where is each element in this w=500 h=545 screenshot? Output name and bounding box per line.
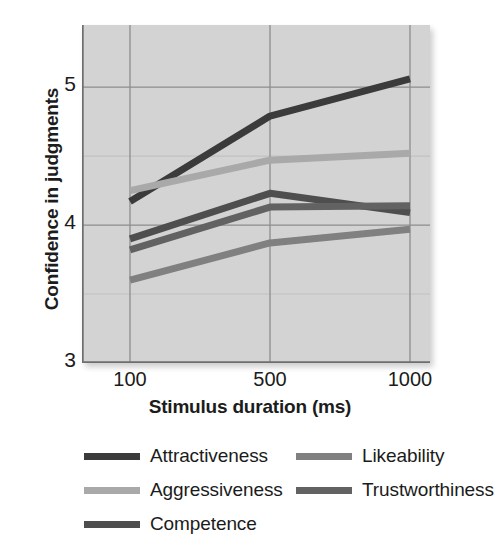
x-tick-label: 500 [253, 368, 286, 391]
legend-label: Trustworthiness [362, 479, 494, 501]
legend-label: Aggressiveness [150, 479, 283, 501]
legend-label: Attractiveness [150, 445, 268, 467]
legend-color-swatch [84, 453, 140, 460]
x-tick-label: 100 [113, 368, 146, 391]
legend-color-swatch [84, 521, 140, 528]
plot-svg [82, 25, 430, 363]
legend-item[interactable]: Aggressiveness [84, 477, 283, 503]
y-axis-tick-labels: 345 [50, 0, 76, 545]
plot-area [82, 25, 430, 363]
legend-color-swatch [84, 487, 140, 494]
legend-item[interactable]: Trustworthiness [296, 477, 494, 503]
legend-color-swatch [296, 453, 352, 460]
x-axis-tick-labels: 1005001000 [82, 368, 430, 398]
y-tick-label: 3 [50, 349, 76, 370]
x-axis-title: Stimulus duration (ms) [0, 396, 500, 418]
x-tick-label: 1000 [388, 368, 433, 391]
legend-label: Competence [150, 513, 257, 535]
line-chart-figure: Confidence in judgments 345 1005001000 S… [0, 0, 500, 545]
legend-color-swatch [296, 487, 352, 494]
legend-item[interactable]: Competence [84, 511, 257, 537]
y-tick-label: 4 [50, 211, 76, 232]
chart-legend: AttractivenessAggressivenessCompetenceLi… [84, 443, 484, 543]
legend-label: Likeability [362, 445, 444, 467]
y-tick-label: 5 [50, 73, 76, 94]
legend-item[interactable]: Likeability [296, 443, 444, 469]
legend-item[interactable]: Attractiveness [84, 443, 268, 469]
